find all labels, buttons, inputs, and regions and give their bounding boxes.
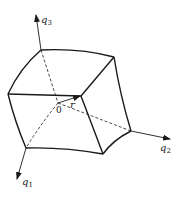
edge-right-lower xyxy=(103,131,131,154)
hidden-edge-to-q2 xyxy=(58,103,131,131)
edge-top-back xyxy=(41,50,114,57)
edge-front-middle xyxy=(81,96,103,154)
q1-axis xyxy=(17,148,26,179)
q2-label: q2 xyxy=(160,143,171,155)
q1-label: q1 xyxy=(22,177,33,189)
edge-right-vertical xyxy=(114,57,131,131)
vector-r-label: r xyxy=(70,100,75,110)
curvilinear-volume-diagram xyxy=(0,0,182,197)
q3-label: q3 xyxy=(41,15,52,27)
edge-front-left xyxy=(8,94,26,148)
position-vector-r xyxy=(58,96,80,103)
hidden-edge-to-q1 xyxy=(26,103,58,148)
axes xyxy=(17,15,170,179)
edge-bottom-front xyxy=(26,148,103,154)
edge-top-left xyxy=(8,50,41,94)
q2-axis xyxy=(131,131,170,139)
origin-label: 0 xyxy=(56,106,62,115)
edge-top-front xyxy=(8,94,81,96)
edge-top-right-diag xyxy=(81,57,114,96)
